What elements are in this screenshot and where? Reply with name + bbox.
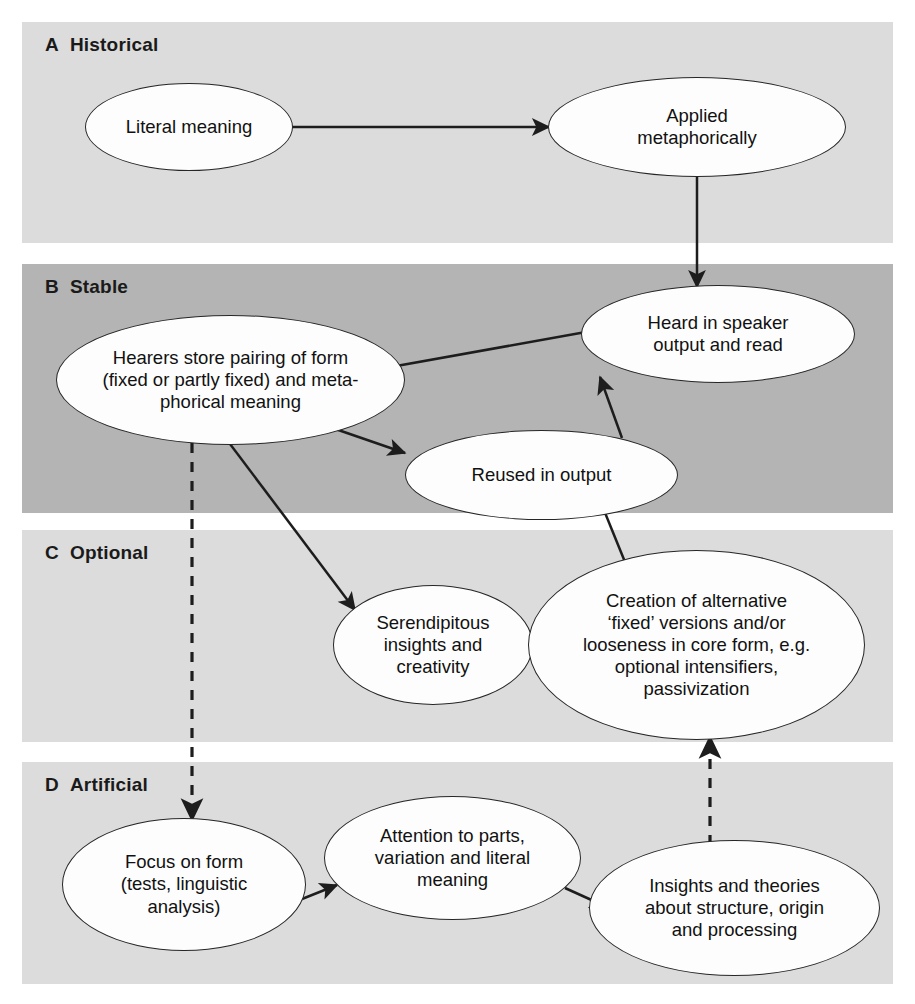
panel-a-title: Historical (70, 34, 159, 55)
panel-b-letter: B (45, 276, 59, 298)
node-heard-in-speaker-output[interactable]: Heard in speaker output and read (581, 285, 855, 383)
panel-d-title: Artificial (70, 774, 148, 795)
panel-d-letter: D (45, 774, 59, 796)
node-hearers-store-pairing-label: Hearers store pairing of form (fixed or … (102, 347, 358, 414)
panel-a-letter: A (45, 34, 59, 56)
panel-d-label: DArtificial (45, 774, 148, 796)
node-applied-metaphorically-label: Applied metaphorically (637, 105, 756, 149)
node-hearers-store-pairing[interactable]: Hearers store pairing of form (fixed or … (56, 315, 405, 445)
panel-a-label: AHistorical (45, 34, 159, 56)
panel-c-label: COptional (45, 542, 149, 564)
node-focus-on-form[interactable]: Focus on form (tests, linguistic analysi… (62, 818, 306, 951)
node-creation-of-alternative-label: Creation of alternative ‘fixed’ versions… (583, 590, 810, 701)
node-focus-on-form-label: Focus on form (tests, linguistic analysi… (121, 851, 247, 918)
node-serendipitous-insights[interactable]: Serendipitous insights and creativity (333, 585, 533, 705)
node-heard-in-speaker-output-label: Heard in speaker output and read (648, 312, 789, 356)
figure-canvas: AHistorical BStable COptional DArtificia… (0, 0, 915, 1004)
node-insights-and-theories[interactable]: Insights and theories about structure, o… (589, 840, 880, 976)
panel-c-letter: C (45, 542, 59, 564)
node-insights-and-theories-label: Insights and theories about structure, o… (645, 875, 824, 942)
panel-b-title: Stable (70, 276, 128, 297)
node-reused-in-output-label: Reused in output (472, 464, 612, 486)
node-attention-to-parts[interactable]: Attention to parts, variation and litera… (324, 796, 581, 920)
node-creation-of-alternative[interactable]: Creation of alternative ‘fixed’ versions… (528, 550, 865, 740)
node-literal-meaning[interactable]: Literal meaning (85, 83, 293, 171)
node-serendipitous-insights-label: Serendipitous insights and creativity (376, 612, 489, 679)
node-reused-in-output[interactable]: Reused in output (405, 430, 678, 520)
node-literal-meaning-label: Literal meaning (126, 116, 253, 138)
panel-b-label: BStable (45, 276, 128, 298)
panel-c-title: Optional (70, 542, 149, 563)
node-applied-metaphorically[interactable]: Applied metaphorically (548, 77, 846, 177)
node-attention-to-parts-label: Attention to parts, variation and litera… (375, 825, 530, 892)
